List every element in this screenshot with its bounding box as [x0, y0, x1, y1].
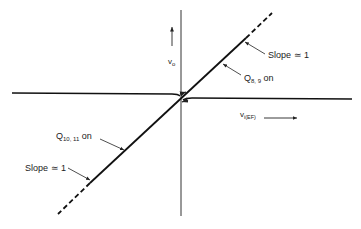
vo-label: vo — [168, 57, 176, 67]
upper-slope-pointer — [245, 42, 265, 54]
q1011-pointer — [100, 139, 124, 150]
vi-ef-label: vi(EF) — [240, 110, 256, 120]
q89-pointer — [223, 64, 241, 75]
slope-line-dashed-upper — [246, 13, 272, 38]
upper-slope-label: Slope ≃ 1 — [268, 50, 309, 60]
lower-slope-pointer — [68, 168, 90, 180]
lower-slope-label: Slope ≃ 1 — [25, 163, 66, 173]
transfer-characteristic-diagram: vo vi(EF) Slope ≃ 1 Q8, 9 on Q10, 11 on … — [0, 0, 361, 229]
q1011-label: Q10, 11 on — [56, 131, 92, 142]
horizontal-characteristic-left — [12, 93, 180, 96]
crossover-arrow-lower — [182, 100, 188, 102]
q89-label: Q8, 9 on — [244, 73, 274, 84]
horizontal-characteristic-right — [183, 98, 352, 100]
slope-line-dashed-lower — [58, 183, 90, 214]
